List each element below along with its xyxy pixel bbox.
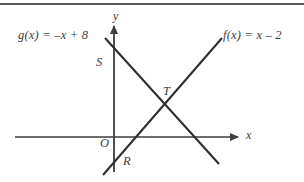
point-label-t: T (163, 85, 170, 98)
x-axis-label: x (246, 129, 251, 141)
point-label-s: S (96, 56, 102, 69)
figure-root: g(x) = –x + 8 f(x) = x – 2 y x S T O R (0, 0, 304, 182)
function-line-g (105, 38, 219, 164)
origin-label: O (100, 137, 109, 150)
function-label-g: g(x) = –x + 8 (18, 29, 88, 42)
function-label-f: f(x) = x – 2 (223, 29, 282, 42)
y-axis-label: y (113, 10, 118, 22)
function-line-f (103, 38, 222, 175)
point-label-r: R (123, 155, 131, 168)
